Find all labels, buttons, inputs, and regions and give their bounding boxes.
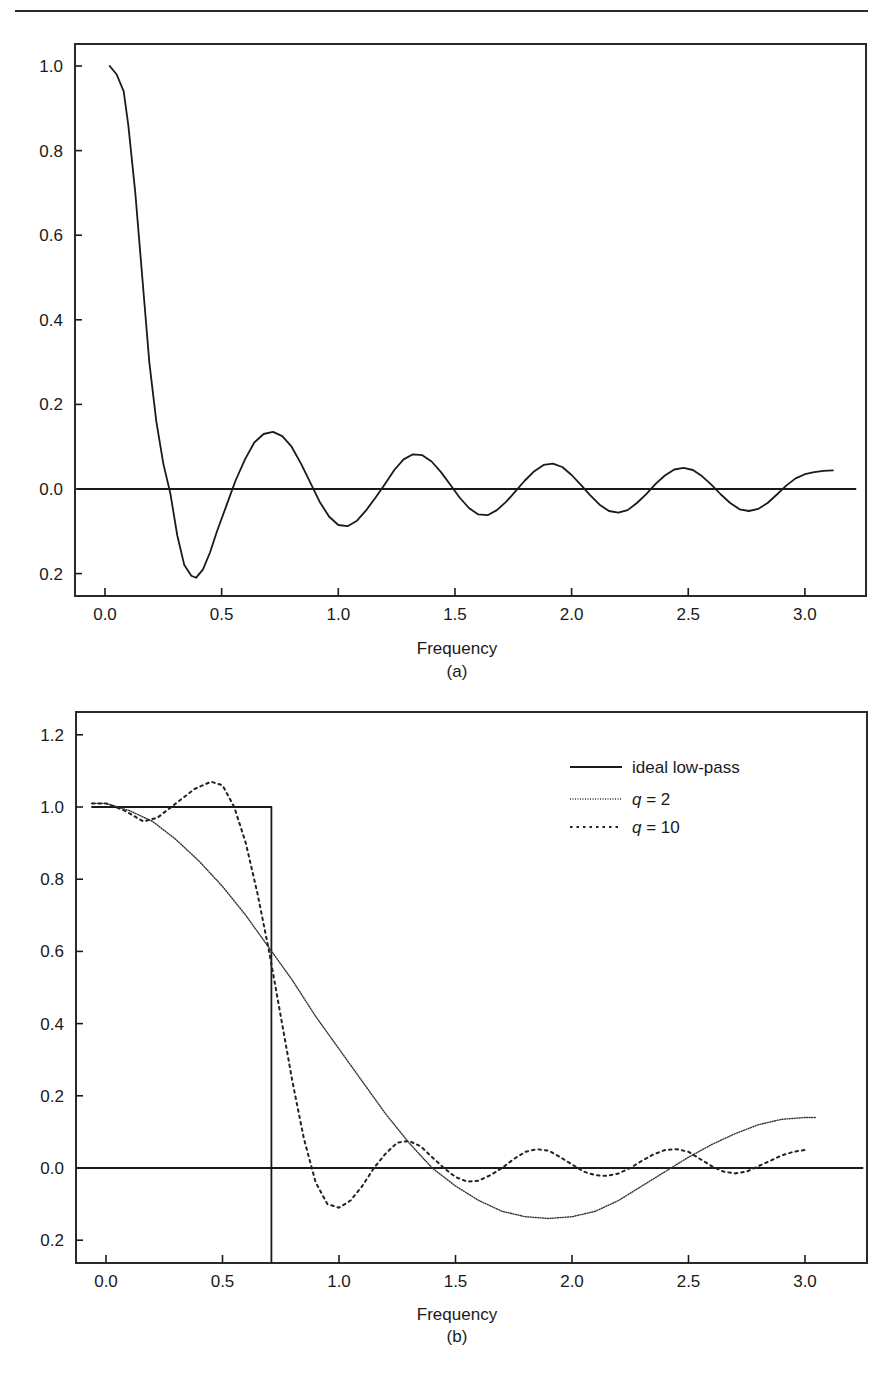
y-tick-label: 0.6 — [39, 226, 63, 245]
y-tick-label: 0.2 — [39, 395, 63, 414]
y-tick-label: 1.2 — [40, 726, 64, 745]
subfigure-label-b: (b) — [447, 1327, 468, 1346]
legend-label-ideal: ideal low-pass — [632, 758, 740, 777]
y-tick-label: 0.4 — [40, 1015, 64, 1034]
x-tick-label: 3.0 — [793, 1272, 817, 1291]
x-tick-label: 1.5 — [444, 1272, 468, 1291]
x-tick-label: 2.0 — [560, 605, 584, 624]
x-tick-label: 3.0 — [793, 605, 817, 624]
y-tick-label: 1.0 — [39, 57, 63, 76]
x-tick-label: 2.5 — [676, 605, 700, 624]
x-tick-label: 0.5 — [211, 1272, 235, 1291]
x-tick-label: 0.0 — [94, 1272, 118, 1291]
x-axis-a: 0.00.51.01.52.02.53.0 — [93, 588, 817, 624]
x-tick-label: 2.5 — [677, 1272, 701, 1291]
x-axis-label-a: Frequency — [417, 639, 498, 658]
x-tick-label: 1.0 — [326, 605, 350, 624]
y-tick-label: 0.4 — [39, 311, 63, 330]
legend-label-q2: q = 2 — [632, 790, 670, 809]
series-frequency-response — [110, 66, 833, 578]
series-group-a — [110, 66, 833, 578]
series-group-b — [92, 782, 817, 1262]
chart-b: 1.21.00.80.60.40.20.00.2 0.00.51.01.52.0… — [40, 712, 867, 1346]
series-q-10 — [92, 782, 805, 1208]
x-axis-b: 0.00.51.01.52.02.53.0 — [94, 1255, 817, 1291]
y-tick-label: 0.2 — [40, 1231, 64, 1250]
subfigure-label-a: (a) — [447, 662, 468, 681]
x-tick-label: 2.0 — [560, 1272, 584, 1291]
y-tick-label: 1.0 — [40, 798, 64, 817]
x-tick-label: 1.0 — [327, 1272, 351, 1291]
y-tick-label: 0.8 — [40, 870, 64, 889]
x-tick-label: 0.0 — [93, 605, 117, 624]
legend-label-q10: q = 10 — [632, 818, 680, 837]
series-q-2 — [92, 803, 817, 1218]
y-tick-label: 0.2 — [39, 565, 63, 584]
chart-a: 1.00.80.60.40.20.00.2 0.00.51.01.52.02.5… — [39, 44, 866, 681]
y-tick-label: 0.0 — [40, 1159, 64, 1178]
y-tick-label: 0.0 — [39, 480, 63, 499]
y-tick-label: 0.8 — [39, 142, 63, 161]
y-tick-label: 0.6 — [40, 942, 64, 961]
legend: ideal low-pass q = 2 q = 10 — [570, 758, 740, 837]
y-tick-label: 0.2 — [40, 1087, 64, 1106]
x-tick-label: 0.5 — [210, 605, 234, 624]
x-tick-label: 1.5 — [443, 605, 467, 624]
x-axis-label-b: Frequency — [417, 1305, 498, 1324]
plot-frame-a — [75, 44, 866, 596]
series-ideal-low-pass — [92, 807, 271, 1262]
figure: 1.00.80.60.40.20.00.2 0.00.51.01.52.02.5… — [0, 0, 889, 1380]
